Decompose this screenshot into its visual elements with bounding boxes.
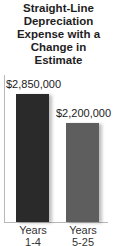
x-tick-label-line: 5-25: [58, 236, 108, 246]
bar-value-label: $2,850,000: [6, 78, 61, 90]
chart-title-line: Depreciation: [0, 15, 117, 28]
y-axis-line: [4, 75, 5, 222]
chart-title-line: Estimate: [0, 54, 117, 67]
x-tick-label: Years 5-25: [58, 224, 108, 246]
bar-value-label: $2,200,000: [56, 107, 111, 119]
bar-years-5-25: [66, 123, 99, 222]
x-tick-label: Years 1-4: [8, 224, 58, 246]
bar-years-1-4: [16, 94, 49, 222]
x-tick-label-line: Years: [8, 224, 58, 236]
x-tick-label-line: Years: [58, 224, 108, 236]
x-tick-label-line: 1-4: [8, 236, 58, 246]
chart-title-line: Straight-Line: [0, 2, 117, 15]
chart-title-line: Expense with a: [0, 28, 117, 41]
x-axis-baseline: [4, 222, 108, 223]
chart-title: Straight-Line Depreciation Expense with …: [0, 2, 117, 67]
chart-title-line: Change in: [0, 41, 117, 54]
